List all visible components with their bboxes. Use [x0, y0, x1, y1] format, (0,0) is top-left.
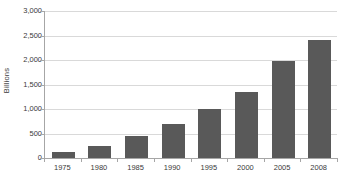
x-axis-tick-mark	[154, 158, 155, 162]
y-axis-tick-label: 0	[12, 154, 42, 162]
x-axis-tick-label: 2000	[237, 163, 254, 172]
x-axis-tick-mark	[227, 158, 228, 162]
x-axis-tick-label: 1975	[54, 163, 71, 172]
x-axis-tick-label: 1985	[127, 163, 144, 172]
y-axis-tick-labels: 05001,0001,5002,0002,5003,000	[12, 0, 42, 181]
y-axis-tick-label: 1,000	[12, 105, 42, 113]
x-axis-tick-mark	[81, 158, 82, 162]
x-axis-tick-mark	[337, 158, 338, 162]
x-axis-tick-label: 2008	[310, 163, 327, 172]
x-axis-tick-label: 1995	[200, 163, 217, 172]
y-axis-tick-label: 1,500	[12, 81, 42, 89]
bar	[198, 109, 221, 158]
bar	[235, 92, 258, 158]
plot-area	[44, 11, 337, 158]
x-axis-tick-mark	[117, 158, 118, 162]
y-axis-tick-label: 2,500	[12, 32, 42, 40]
x-axis-tick-mark	[264, 158, 265, 162]
x-axis-tick-label: 1990	[164, 163, 181, 172]
bar	[88, 146, 111, 158]
y-axis-tick-label: 3,000	[12, 7, 42, 15]
bar	[272, 61, 295, 158]
bars-layer	[45, 11, 337, 158]
x-axis-tick-labels: 19751980198519901995200020052008	[44, 163, 337, 177]
bar	[162, 124, 185, 158]
x-axis-tick-mark	[300, 158, 301, 162]
bar	[308, 40, 331, 158]
bar	[125, 136, 148, 158]
x-axis-tick-marks	[44, 158, 337, 162]
x-axis-tick-mark	[191, 158, 192, 162]
x-axis-tick-mark	[44, 158, 45, 162]
y-axis-tick-label: 500	[12, 130, 42, 138]
y-axis-title-label: Billions	[3, 68, 12, 93]
x-axis-tick-label: 2005	[274, 163, 291, 172]
y-axis-tick-label: 2,000	[12, 56, 42, 64]
bar-chart: Billions 05001,0001,5002,0002,5003,000 1…	[0, 0, 345, 181]
x-axis-tick-label: 1980	[91, 163, 108, 172]
